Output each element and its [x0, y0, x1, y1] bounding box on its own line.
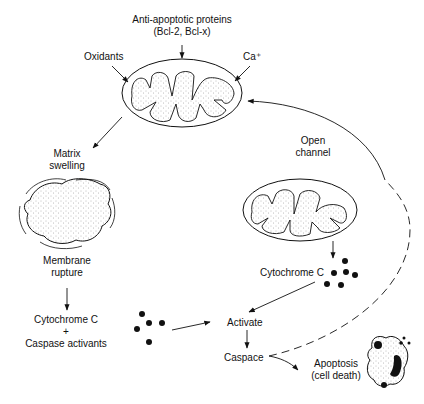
label-cytochrome-c-right: Cytochrome C	[260, 267, 324, 279]
label-apoptosis: Apoptosis (cell death)	[308, 358, 364, 382]
apoptotic-cell-icon	[367, 336, 410, 388]
swollen-mitochondrion-icon	[19, 179, 115, 249]
label-line: Caspase activants	[16, 338, 116, 350]
label-line: (cell death)	[308, 370, 364, 382]
label-line: Anti-apoptotic proteins	[127, 14, 237, 26]
mitochondrion-top-icon	[122, 59, 242, 127]
mitochondrion-open-channel-icon	[243, 179, 357, 241]
label-anti-apoptotic-proteins: Anti-apoptotic proteins (Bcl-2, Bcl-x)	[127, 14, 237, 38]
cytochrome-c-dots-left	[134, 311, 165, 345]
arrow-to-matrix-swelling	[93, 117, 122, 148]
label-line: Matrix	[42, 148, 92, 160]
arrow-cytochrome-to-activate	[249, 282, 315, 312]
label-activate: Activate	[227, 317, 263, 329]
label-line: channel	[288, 147, 338, 159]
label-line: Open	[288, 135, 338, 147]
label-line: (Bcl-2, Bcl-x)	[127, 26, 237, 38]
label-caspace: Caspace	[224, 352, 263, 364]
label-cytochrome-c-caspase-activants: Cytochrome C + Caspase activants	[16, 314, 116, 350]
cytochrome-c-dots-right	[324, 258, 358, 288]
label-oxidants: Oxidants	[84, 51, 123, 63]
label-line: swelling	[42, 160, 92, 172]
label-membrane-rupture: Membrane rupture	[36, 255, 98, 279]
label-open-channel: Open channel	[288, 135, 338, 159]
label-line: Cytochrome C	[16, 314, 116, 326]
label-line: rupture	[36, 267, 98, 279]
arrow-calcium	[235, 66, 250, 81]
arrow-caspace-to-apoptosis	[269, 356, 298, 370]
label-calcium: Ca⁺	[243, 51, 261, 63]
label-line: Membrane	[36, 255, 98, 267]
label-matrix-swelling: Matrix swelling	[42, 148, 92, 172]
label-line: +	[16, 326, 116, 338]
arrow-dots-to-activate	[172, 322, 210, 330]
label-line: Apoptosis	[308, 358, 364, 370]
arrow-oxidants	[112, 66, 128, 82]
